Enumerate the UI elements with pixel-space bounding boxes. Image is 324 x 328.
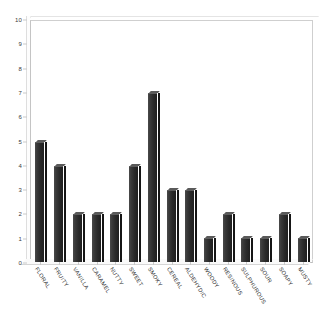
bar-series: [31, 21, 312, 262]
x-axis-tick-mark: [97, 262, 98, 265]
bar[interactable]: [223, 214, 232, 262]
bar-slot: [54, 21, 64, 262]
x-axis-tick-mark: [40, 262, 41, 265]
y-axis: 012345678910: [0, 20, 30, 264]
x-axis-tick-label: FRUITY: [53, 266, 70, 288]
x-axis-tick-mark: [78, 262, 79, 265]
y-axis-tick-label: 0: [18, 260, 22, 266]
bar-side-face: [251, 238, 253, 262]
bar-slot: [223, 21, 233, 262]
bar[interactable]: [54, 166, 63, 262]
y-axis-tick-mark: [23, 117, 27, 118]
y-axis-tick-label: 9: [18, 41, 22, 47]
bar-side-face: [214, 238, 216, 262]
bar-side-face: [177, 190, 179, 262]
bar-side-face: [233, 214, 235, 262]
bar-slot: [110, 21, 120, 262]
y-axis-tick-mark: [23, 263, 27, 264]
x-axis-tick-mark: [59, 262, 60, 265]
y-axis-tick-mark: [23, 214, 27, 215]
x-axis-tick-mark: [209, 262, 210, 265]
bar-top-face: [36, 140, 47, 142]
bar-slot: [298, 21, 308, 262]
bar-side-face: [308, 238, 310, 262]
y-axis-tick-mark: [23, 68, 27, 69]
y-axis-tick-mark: [23, 141, 27, 142]
bar-top-face: [74, 212, 85, 214]
bar-top-face: [224, 212, 235, 214]
y-axis-tick-label: 7: [18, 90, 22, 96]
x-axis-tick-mark: [172, 262, 173, 265]
x-axis-tick-mark: [284, 262, 285, 265]
x-axis-tick-mark: [228, 262, 229, 265]
bar[interactable]: [260, 238, 269, 262]
bar[interactable]: [129, 166, 138, 262]
y-axis-tick-label: 5: [18, 139, 22, 145]
bar-top-face: [55, 164, 66, 166]
bar-slot: [92, 21, 102, 262]
bar-side-face: [102, 214, 104, 262]
bar[interactable]: [167, 190, 176, 262]
bar-slot: [204, 21, 214, 262]
bar-slot: [185, 21, 195, 262]
bar-top-face: [93, 212, 104, 214]
x-axis-tick-label: NUTTY: [109, 266, 125, 286]
bar[interactable]: [73, 214, 82, 262]
bar-side-face: [139, 166, 141, 262]
bar-top-face: [130, 164, 141, 166]
bar-side-face: [64, 166, 66, 262]
bar[interactable]: [185, 190, 194, 262]
x-axis-tick-label: SOAPY: [278, 266, 294, 287]
bar-top-face: [280, 212, 291, 214]
bar-top-face: [186, 188, 197, 190]
x-axis-tick-mark: [134, 262, 135, 265]
bar-top-face: [261, 236, 272, 238]
bar[interactable]: [110, 214, 119, 262]
bar-side-face: [195, 190, 197, 262]
bar-chart: 012345678910 FLORALFRUITYVANILLACARAMELN…: [0, 0, 324, 328]
x-axis-tick-mark: [303, 262, 304, 265]
bar-slot: [279, 21, 289, 262]
bar-slot: [241, 21, 251, 262]
bar[interactable]: [148, 93, 157, 262]
x-axis-tick-mark: [190, 262, 191, 265]
bar-side-face: [83, 214, 85, 262]
x-axis-tick-label: MUSTY: [297, 266, 313, 287]
x-axis-tick-label: WOODY: [203, 266, 221, 289]
bar-slot: [129, 21, 139, 262]
y-axis-tick-label: 8: [18, 66, 22, 72]
bar-slot: [167, 21, 177, 262]
y-axis-tick-label: 3: [18, 187, 22, 193]
bar-side-face: [158, 93, 160, 262]
x-axis-tick-label: SWEET: [128, 266, 145, 288]
bar-slot: [73, 21, 83, 262]
bar-side-face: [289, 214, 291, 262]
bar[interactable]: [204, 238, 213, 262]
y-axis-tick-label: 1: [18, 236, 22, 242]
x-axis-tick-label: SMOKY: [147, 266, 164, 288]
bar-top-face: [168, 188, 179, 190]
y-axis-tick-label: 2: [18, 211, 22, 217]
bar[interactable]: [298, 238, 307, 262]
bar[interactable]: [241, 238, 250, 262]
y-axis-tick-label: 10: [15, 17, 22, 23]
y-axis-tick-mark: [23, 44, 27, 45]
bar[interactable]: [35, 142, 44, 263]
y-axis-tick-label: 6: [18, 114, 22, 120]
y-axis-tick-mark: [23, 238, 27, 239]
x-axis-tick-label: CARAMEL: [90, 266, 111, 294]
bar-side-face: [45, 142, 47, 263]
y-axis-tick-mark: [23, 92, 27, 93]
x-axis-tick-mark: [153, 262, 154, 265]
x-axis-tick-label: SOUR: [259, 266, 273, 284]
x-axis-tick-mark: [265, 262, 266, 265]
y-axis-tick-mark: [23, 165, 27, 166]
bar-top-face: [205, 236, 216, 238]
x-axis-tick-mark: [246, 262, 247, 265]
y-axis-tick-label: 4: [18, 163, 22, 169]
bar[interactable]: [92, 214, 101, 262]
x-axis-tick-label: FLORAL: [34, 266, 52, 289]
bar[interactable]: [279, 214, 288, 262]
bar-side-face: [120, 214, 122, 262]
bar-slot: [260, 21, 270, 262]
